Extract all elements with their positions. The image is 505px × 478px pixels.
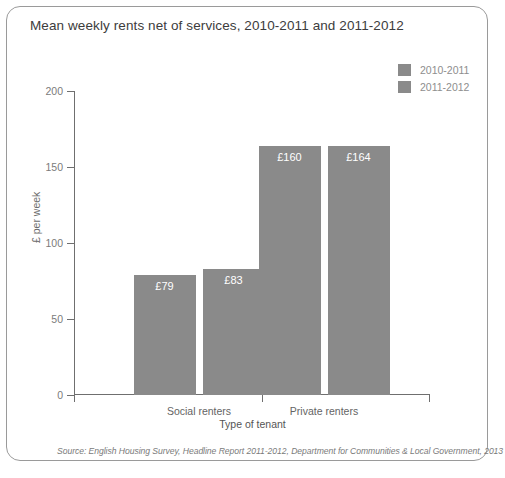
y-axis-tick-label: 50 xyxy=(51,313,63,325)
x-axis-tick xyxy=(429,395,430,402)
y-axis-tick-label: 150 xyxy=(45,161,63,173)
bar-value-label: £83 xyxy=(203,274,265,286)
source-note: Source: English Housing Survey, Headline… xyxy=(57,446,503,456)
y-axis-tick xyxy=(67,91,74,92)
y-axis-tick xyxy=(67,395,74,396)
x-axis-category-label: Social renters xyxy=(167,405,231,417)
x-axis-category-label: Private renters xyxy=(290,405,358,417)
y-axis-tick xyxy=(67,167,74,168)
chart-title: Mean weekly rents net of services, 2010-… xyxy=(30,18,404,33)
y-axis-title: £ per week xyxy=(30,192,42,243)
bar-value-label: £164 xyxy=(328,151,390,163)
bar[interactable]: £79 xyxy=(134,275,196,395)
bar[interactable]: £160 xyxy=(259,146,321,395)
bar-value-label: £160 xyxy=(259,151,321,163)
bar[interactable]: £83 xyxy=(203,269,265,395)
x-axis-tick xyxy=(74,395,75,402)
plot-area: 050100150200 £79£83£160£164 xyxy=(74,91,430,395)
y-axis-tick-label: 100 xyxy=(45,237,63,249)
bar-value-label: £79 xyxy=(134,280,196,292)
y-axis-tick xyxy=(67,319,74,320)
y-axis-tick-label: 0 xyxy=(57,389,63,401)
legend-swatch-icon xyxy=(398,64,411,76)
legend-label: 2010-2011 xyxy=(420,64,469,76)
bar[interactable]: £164 xyxy=(328,146,390,395)
legend-item-2010-2011[interactable]: 2010-2011 xyxy=(398,62,469,77)
y-axis-tick xyxy=(67,243,74,244)
y-axis-line xyxy=(74,91,75,395)
x-axis-tick xyxy=(262,395,263,402)
y-axis-tick-label: 200 xyxy=(45,85,63,97)
x-axis-title: Type of tenant xyxy=(0,418,505,430)
